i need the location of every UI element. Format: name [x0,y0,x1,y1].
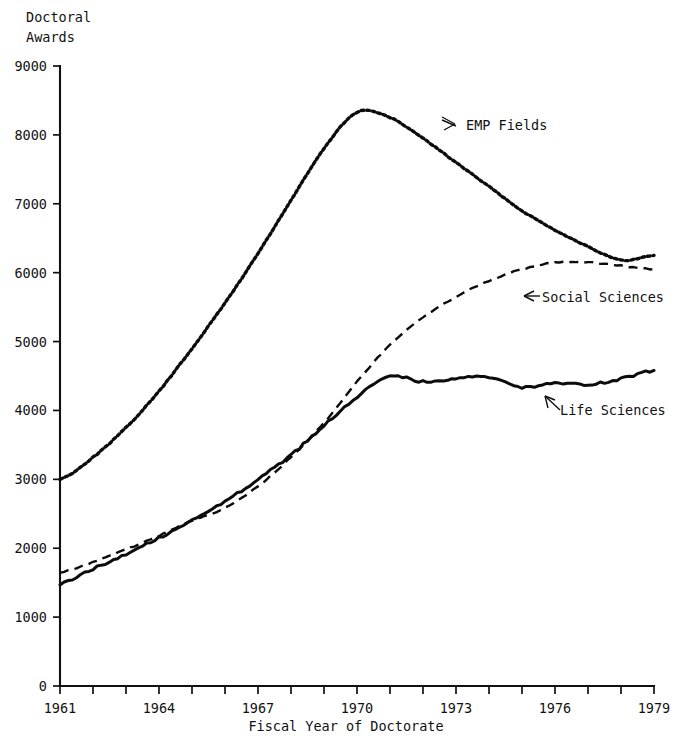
doctoral-awards-line-chart: Doctoral Awards 010002000300040005000600… [0,0,692,750]
y-axis-tick-labels: 0100020003000400050006000700080009000 [14,58,47,694]
y-tick-label: 6000 [14,265,47,281]
annotation-social-sciences: Social Sciences [524,289,664,305]
y-tick-label: 5000 [14,334,47,350]
series-label-emp-fields: EMP Fields [466,117,547,133]
x-tick-label: 1967 [242,700,275,716]
annotation-emp-fields: EMP Fields [442,117,547,133]
y-tick-label: 0 [39,678,47,694]
x-tick-label: 1973 [440,700,473,716]
chart-container: Doctoral Awards 010002000300040005000600… [0,0,692,750]
y-tick-label: 2000 [14,540,47,556]
y-tick-label: 7000 [14,196,47,212]
x-tick-label: 1970 [341,700,374,716]
x-tick-label: 1976 [539,700,572,716]
axis-lines [60,66,654,686]
y-tick-label: 1000 [14,609,47,625]
series-label-social-sciences: Social Sciences [542,289,664,305]
x-axis-ticks [60,686,654,694]
x-axis-title: Fiscal Year of Doctorate [248,718,443,734]
x-axis-tick-labels: 1961196419671970197319761979 [44,700,671,716]
y-tick-label: 3000 [14,471,47,487]
y-tick-label: 4000 [14,402,47,418]
x-tick-label: 1964 [143,700,176,716]
x-tick-label: 1979 [638,700,671,716]
y-axis-title-line2: Awards [26,29,75,45]
series-label-life-sciences: Life Sciences [560,402,666,418]
annotation-life-sciences: Life Sciences [545,396,666,418]
y-axis-title-line1: Doctoral [26,9,91,25]
x-tick-label: 1961 [44,700,77,716]
y-tick-label: 9000 [14,58,47,74]
y-tick-label: 8000 [14,127,47,143]
